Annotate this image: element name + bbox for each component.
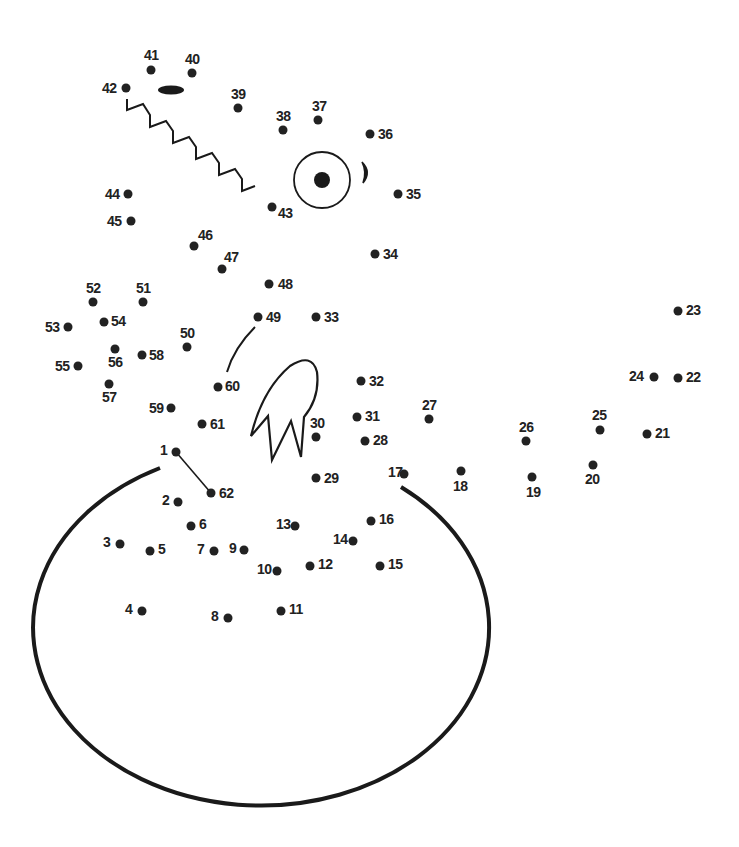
dot-marker[interactable] [138, 351, 147, 360]
dot-6[interactable]: 6 [187, 516, 208, 532]
dot-9[interactable]: 9 [229, 540, 249, 556]
dot-marker[interactable] [643, 430, 652, 439]
dot-marker[interactable] [214, 383, 223, 392]
dot-marker[interactable] [218, 265, 227, 274]
dot-marker[interactable] [361, 437, 370, 446]
dot-47[interactable]: 47 [218, 249, 240, 274]
dot-marker[interactable] [277, 607, 286, 616]
dot-29[interactable]: 29 [312, 470, 340, 486]
dot-marker[interactable] [306, 562, 315, 571]
dot-marker[interactable] [650, 373, 659, 382]
dot-10[interactable]: 10 [257, 561, 282, 577]
dot-marker[interactable] [234, 104, 243, 113]
dot-marker[interactable] [187, 522, 196, 531]
dot-55[interactable]: 55 [55, 358, 83, 374]
dot-58[interactable]: 58 [138, 347, 165, 363]
dot-marker[interactable] [273, 567, 282, 576]
dot-41[interactable]: 41 [144, 47, 159, 75]
dot-marker[interactable] [111, 345, 120, 354]
dot-20[interactable]: 20 [585, 461, 600, 488]
dot-marker[interactable] [74, 362, 83, 371]
dot-54[interactable]: 54 [100, 313, 127, 329]
dot-marker[interactable] [312, 433, 321, 442]
dot-28[interactable]: 28 [361, 432, 389, 448]
dot-marker[interactable] [146, 547, 155, 556]
dot-marker[interactable] [198, 420, 207, 429]
dot-marker[interactable] [394, 190, 403, 199]
dot-26[interactable]: 26 [519, 419, 534, 446]
dot-48[interactable]: 48 [265, 276, 294, 292]
dot-59[interactable]: 59 [149, 400, 176, 416]
dot-16[interactable]: 16 [367, 511, 395, 527]
dot-3[interactable]: 3 [103, 534, 125, 550]
dot-38[interactable]: 38 [276, 108, 291, 135]
dot-25[interactable]: 25 [592, 407, 607, 435]
dot-8[interactable]: 8 [211, 608, 233, 624]
dot-marker[interactable] [376, 562, 385, 571]
dot-marker[interactable] [366, 130, 375, 139]
dot-marker[interactable] [64, 323, 73, 332]
dot-marker[interactable] [183, 343, 192, 352]
dot-15[interactable]: 15 [376, 556, 404, 572]
dot-marker[interactable] [116, 540, 125, 549]
dot-marker[interactable] [312, 474, 321, 483]
dot-33[interactable]: 33 [312, 309, 340, 325]
dot-marker[interactable] [357, 377, 366, 386]
dot-marker[interactable] [124, 190, 133, 199]
dot-46[interactable]: 46 [190, 227, 214, 251]
dot-37[interactable]: 37 [312, 98, 327, 125]
dot-60[interactable]: 60 [214, 378, 241, 394]
dot-12[interactable]: 12 [306, 556, 334, 572]
dot-34[interactable]: 34 [371, 246, 399, 262]
dot-marker[interactable] [312, 313, 321, 322]
dot-marker[interactable] [174, 498, 183, 507]
dot-marker[interactable] [167, 404, 176, 413]
dot-61[interactable]: 61 [198, 416, 226, 432]
dot-marker[interactable] [172, 448, 181, 457]
dot-52[interactable]: 52 [86, 280, 101, 307]
dot-marker[interactable] [138, 607, 147, 616]
dot-5[interactable]: 5 [146, 541, 167, 557]
dot-50[interactable]: 50 [180, 325, 195, 352]
dot-30[interactable]: 30 [310, 415, 325, 442]
dot-marker[interactable] [254, 313, 263, 322]
dot-56[interactable]: 56 [108, 345, 123, 371]
dot-62[interactable]: 62 [207, 485, 235, 501]
dot-22[interactable]: 22 [674, 369, 702, 385]
dot-23[interactable]: 23 [674, 302, 702, 318]
dot-marker[interactable] [522, 437, 531, 446]
dot-marker[interactable] [265, 280, 274, 289]
dot-45[interactable]: 45 [107, 213, 136, 229]
dot-marker[interactable] [89, 298, 98, 307]
dot-17[interactable]: 17 [388, 464, 409, 480]
dot-marker[interactable] [207, 489, 216, 498]
dot-marker[interactable] [528, 473, 537, 482]
dot-18[interactable]: 18 [453, 467, 468, 495]
dot-51[interactable]: 51 [136, 280, 151, 307]
dot-marker[interactable] [425, 415, 434, 424]
dot-14[interactable]: 14 [333, 531, 358, 547]
dot-11[interactable]: 11 [277, 601, 304, 617]
dot-marker[interactable] [367, 517, 376, 526]
dot-57[interactable]: 57 [102, 380, 117, 406]
dot-marker[interactable] [100, 318, 109, 327]
dot-49[interactable]: 49 [254, 309, 282, 325]
dot-13[interactable]: 13 [276, 516, 300, 532]
dot-19[interactable]: 19 [526, 473, 541, 501]
dot-marker[interactable] [139, 298, 148, 307]
dot-marker[interactable] [279, 126, 288, 135]
dot-36[interactable]: 36 [366, 126, 394, 142]
dot-27[interactable]: 27 [422, 397, 437, 424]
dot-24[interactable]: 24 [629, 368, 659, 384]
dot-marker[interactable] [224, 614, 233, 623]
dot-marker[interactable] [147, 66, 156, 75]
dot-marker[interactable] [268, 203, 277, 212]
dot-4[interactable]: 4 [125, 601, 147, 617]
dot-marker[interactable] [674, 374, 683, 383]
dot-marker[interactable] [240, 546, 249, 555]
dot-marker[interactable] [589, 461, 598, 470]
dot-marker[interactable] [674, 307, 683, 316]
dot-21[interactable]: 21 [643, 425, 671, 441]
dot-marker[interactable] [210, 547, 219, 556]
dot-marker[interactable] [105, 380, 114, 389]
